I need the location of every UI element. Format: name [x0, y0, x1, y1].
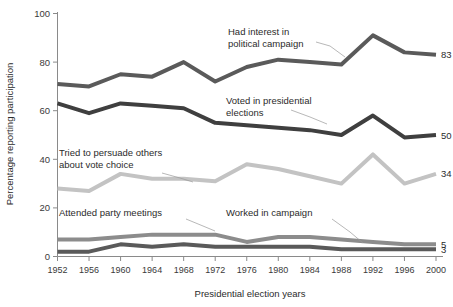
x-tick-label-2000: 2000 — [426, 265, 446, 275]
annotation-had-interest: Had interest in political campaign — [228, 26, 304, 49]
y-tick-label-40: 40 — [39, 154, 50, 165]
y-tick-labels: 0 20 40 60 80 100 — [34, 8, 50, 262]
annot-attended-line-1: Attended party meetings — [59, 207, 162, 218]
leader-line-had-interest — [316, 42, 345, 57]
chart-canvas: 0 20 40 60 80 100 Percentage reporting p… — [0, 0, 453, 307]
annot-voted-line-1: Voted in presidential — [226, 95, 312, 106]
x-tick-marks — [58, 257, 437, 262]
x-axis-title: Presidential election years — [195, 288, 306, 299]
leader-line-voted — [291, 110, 327, 124]
x-tick-label-1976: 1976 — [237, 265, 257, 275]
x-tick-label-1996: 1996 — [394, 265, 414, 275]
x-tick-label-1984: 1984 — [300, 265, 320, 275]
leader-line-attended — [186, 219, 215, 231]
y-axis-title: Percentage reporting participation — [4, 63, 15, 206]
x-tick-label-1952: 1952 — [47, 265, 67, 275]
x-tick-label-1980: 1980 — [268, 265, 288, 275]
annot-had-interest-line-1: Had interest in — [228, 26, 289, 37]
x-tick-label-1956: 1956 — [79, 265, 99, 275]
annot-had-interest-line-2: political campaign — [228, 38, 304, 49]
y-tick-marks — [53, 14, 58, 257]
x-tick-label-1972: 1972 — [205, 265, 225, 275]
x-tick-label-1964: 1964 — [142, 265, 162, 275]
x-tick-label-1968: 1968 — [174, 265, 194, 275]
annot-persuade-line-2: about vote choice — [59, 159, 133, 170]
series-lines-group — [58, 35, 437, 251]
annotation-voted: Voted in presidential elections — [226, 95, 312, 118]
series-end-label-4: 3 — [441, 244, 446, 255]
y-tick-label-0: 0 — [45, 251, 50, 262]
series-end-label-1: 50 — [441, 130, 452, 141]
x-tick-label-1960: 1960 — [111, 265, 131, 275]
series-end-label-2: 34 — [441, 168, 452, 179]
x-tick-labels: 1952195619601964196819721976198019841988… — [47, 265, 446, 275]
annotation-persuade: Tried to persuade others about vote choi… — [59, 147, 162, 170]
annot-persuade-line-1: Tried to persuade others — [59, 147, 162, 158]
annot-voted-line-2: elections — [226, 107, 264, 118]
annot-worked-line-1: Worked in campaign — [226, 207, 312, 218]
series-end-label-0: 83 — [441, 49, 452, 60]
y-tick-label-100: 100 — [34, 8, 50, 19]
annotation-worked: Worked in campaign — [226, 207, 312, 218]
series-line-4 — [58, 244, 437, 251]
annotation-attended: Attended party meetings — [59, 207, 162, 218]
series-end-labels: 83503453 — [441, 49, 452, 254]
x-tick-label-1992: 1992 — [363, 265, 383, 275]
y-tick-label-60: 60 — [39, 105, 50, 116]
chart-figure: 0 20 40 60 80 100 Percentage reporting p… — [0, 0, 453, 307]
x-tick-label-1988: 1988 — [331, 265, 351, 275]
series-line-3 — [58, 235, 437, 245]
y-tick-label-20: 20 — [39, 202, 50, 213]
y-tick-label-80: 80 — [39, 57, 50, 68]
